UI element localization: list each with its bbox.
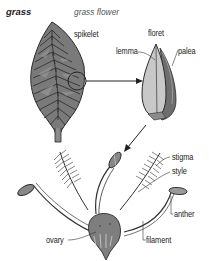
label-stigma: stigma (172, 153, 193, 162)
label-palea: palea (178, 47, 196, 56)
label-filament: filament (146, 236, 171, 245)
label-ovary: ovary (46, 236, 64, 245)
label-anther: anther (174, 210, 194, 219)
label-lemma: lemma (116, 47, 138, 56)
spikelet-illustration (31, 22, 143, 142)
grass-flower-diagram (0, 0, 209, 261)
anthers (16, 150, 187, 197)
floret-illustration (138, 44, 178, 120)
label-style: style (172, 167, 187, 176)
ovary-illustration (89, 214, 121, 261)
label-spikelet: spikelet (74, 30, 98, 39)
label-floret: floret (148, 29, 164, 38)
